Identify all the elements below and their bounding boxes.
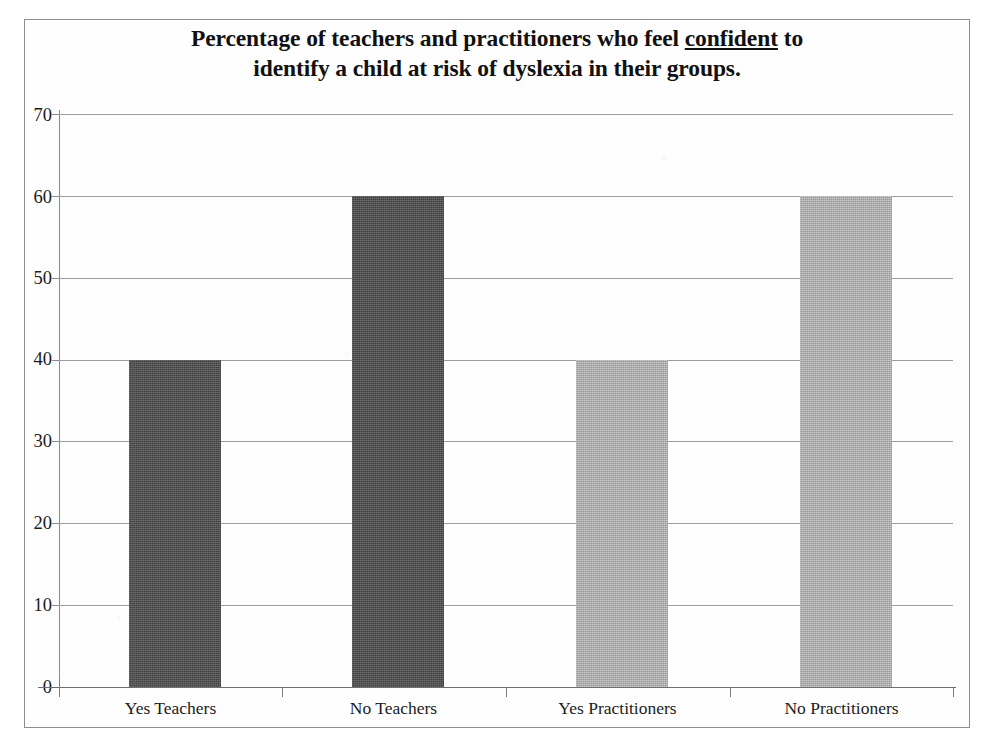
y-tick-mark-30 (52, 441, 59, 442)
chart-title-emphasis-confident: confident (685, 25, 778, 51)
bar-no-teachers[interactable] (352, 196, 444, 687)
x-label-no-teachers: No Teachers (282, 698, 505, 719)
x-label-yes-practitioners: Yes Practitioners (506, 698, 729, 719)
x-tick-mark-2 (506, 688, 507, 697)
y-tick-label-60: 60 (12, 187, 52, 208)
y-tick-mark-10 (52, 605, 59, 606)
chart-title-line-2: identify a child at risk of dyslexia in … (253, 55, 740, 81)
y-tick-label-30: 30 (12, 431, 52, 452)
x-tick-mark-4 (953, 688, 954, 697)
chart-title-text-after: to (778, 25, 803, 51)
x-tick-mark-3 (730, 688, 731, 697)
x-label-yes-teachers: Yes Teachers (59, 698, 282, 719)
chart-title: Percentage of teachers and practitioners… (24, 23, 970, 83)
y-tick-mark-70 (52, 114, 59, 115)
y-axis-tick-labels: 0 10 20 30 40 50 60 70 (8, 114, 52, 687)
x-label-no-practitioners: No Practitioners (730, 698, 953, 719)
x-axis-line (38, 687, 956, 688)
y-tick-label-50: 50 (12, 268, 52, 289)
y-tick-mark-60 (52, 196, 59, 197)
y-tick-mark-50 (52, 278, 59, 279)
gridline-70 (59, 114, 953, 115)
bar-yes-practitioners[interactable] (576, 360, 668, 687)
chart-title-line-1: Percentage of teachers and practitioners… (191, 25, 803, 51)
y-tick-mark-20 (52, 523, 59, 524)
x-axis-category-labels: Yes Teachers No Teachers Yes Practitione… (59, 698, 953, 726)
y-tick-label-10: 10 (12, 595, 52, 616)
y-tick-label-20: 20 (12, 513, 52, 534)
x-tick-mark-1 (282, 688, 283, 697)
chart-title-text-before: Percentage of teachers and practitioners… (191, 25, 685, 51)
bar-no-practitioners[interactable] (800, 196, 892, 687)
bar-yes-teachers[interactable] (129, 360, 221, 687)
y-tick-mark-40 (52, 360, 59, 361)
x-tick-mark-0 (59, 688, 60, 697)
x-tick-mark-start (59, 678, 60, 688)
y-tick-label-70: 70 (12, 105, 52, 126)
plot-area (59, 114, 953, 687)
y-tick-label-40: 40 (12, 349, 52, 370)
